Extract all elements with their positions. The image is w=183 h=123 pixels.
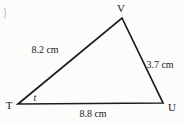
angle-label-t: t xyxy=(34,93,37,103)
triangle-figure: V T U 8.2 cm 3.7 cm 8.8 cm t xyxy=(0,0,183,123)
triangle-outline xyxy=(18,18,163,104)
vertex-label-v: V xyxy=(117,3,125,14)
vertex-label-u: U xyxy=(168,102,176,113)
side-label-tu: 8.8 cm xyxy=(79,109,106,119)
side-label-tv: 8.2 cm xyxy=(31,45,58,55)
side-label-vu: 3.7 cm xyxy=(146,60,173,70)
vertex-label-t: T xyxy=(6,100,13,111)
